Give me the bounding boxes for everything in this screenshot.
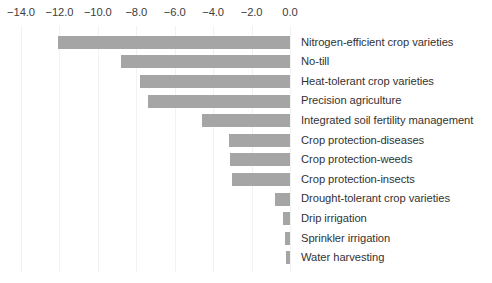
bar-row: Heat-tolerant crop varieties	[0, 72, 492, 92]
plot-area: Nitrogen-efficient crop varietiesNo-till…	[0, 26, 492, 275]
category-label: Integrated soil fertility management	[301, 113, 473, 128]
x-axis-tick-label: −10.0	[84, 6, 112, 18]
bar-row: Precision agriculture	[0, 91, 492, 111]
bar	[148, 95, 290, 108]
bar-row: Sprinkler irrigation	[0, 229, 492, 249]
bar-row: Crop protection-weeds	[0, 150, 492, 170]
category-label: Water harvesting	[301, 250, 384, 265]
category-label: Nitrogen-efficient crop varieties	[301, 35, 453, 50]
bar	[285, 232, 290, 245]
bar	[230, 153, 290, 166]
x-axis-tick-label: −14.0	[7, 6, 35, 18]
bar-row: Water harvesting	[0, 248, 492, 268]
x-axis-tick-label: −8.0	[125, 6, 147, 18]
bar-row: Drought-tolerant crop varieties	[0, 189, 492, 209]
bar-row: Crop protection-insects	[0, 170, 492, 190]
bar	[229, 134, 290, 147]
bar-row: Nitrogen-efficient crop varieties	[0, 33, 492, 53]
bar	[283, 212, 290, 225]
category-label: Crop protection-insects	[301, 172, 415, 187]
x-axis-tick-label: 0.0	[282, 6, 297, 18]
category-label: Sprinkler irrigation	[301, 231, 390, 246]
bar-row: No-till	[0, 52, 492, 72]
bar	[286, 251, 290, 264]
bar-chart: −14.0−12.0−10.0−8.0−6.0−4.0−2.00.0 Nitro…	[0, 0, 492, 283]
category-label: Heat-tolerant crop varieties	[301, 74, 434, 89]
category-label: Crop protection-diseases	[301, 133, 424, 148]
bar	[121, 55, 290, 68]
bar-row: Integrated soil fertility management	[0, 111, 492, 131]
bar	[232, 173, 290, 186]
category-label: Crop protection-weeds	[301, 152, 413, 167]
bar	[275, 193, 290, 206]
category-label: Drip irrigation	[301, 211, 367, 226]
x-axis-tick-label: −2.0	[241, 6, 263, 18]
bar	[140, 75, 290, 88]
category-label: No-till	[301, 54, 329, 69]
bar	[58, 36, 290, 49]
x-axis-tick-label: −12.0	[46, 6, 74, 18]
x-axis-tick-label: −6.0	[164, 6, 186, 18]
x-axis-top: −14.0−12.0−10.0−8.0−6.0−4.0−2.00.0	[0, 0, 492, 26]
bar-row: Crop protection-diseases	[0, 131, 492, 151]
category-label: Precision agriculture	[301, 93, 401, 108]
bars-layer: Nitrogen-efficient crop varietiesNo-till…	[0, 26, 492, 275]
bar	[202, 114, 290, 127]
x-axis-tick-label: −4.0	[202, 6, 224, 18]
bar-row: Drip irrigation	[0, 209, 492, 229]
category-label: Drought-tolerant crop varieties	[301, 191, 450, 206]
